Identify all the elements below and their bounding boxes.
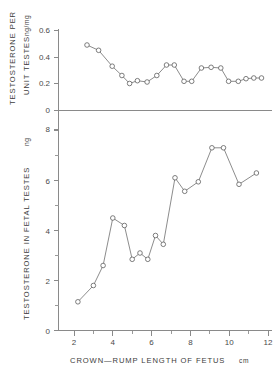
x-ticklabel-2: 2 — [72, 338, 77, 347]
two-panel-line-chart: 0.6 0.4 0.2 0 8 — [0, 0, 276, 369]
top-panel-y-ticks — [54, 31, 59, 130]
figure-container: 0.6 0.4 0.2 0 8 — [0, 0, 276, 369]
data-point — [182, 189, 187, 194]
data-point — [146, 257, 151, 262]
data-point — [259, 76, 264, 81]
data-point — [199, 66, 204, 71]
top-y-ticklabel-2: 0.2 — [39, 79, 51, 88]
data-point — [221, 146, 226, 151]
data-point — [254, 171, 259, 176]
x-ticklabel-10: 10 — [225, 338, 234, 347]
data-point — [172, 63, 177, 68]
data-point — [173, 176, 178, 181]
top-y-ticklabel-0: 0.6 — [39, 26, 51, 35]
data-point — [237, 182, 242, 187]
bottom-series-line — [78, 148, 257, 302]
bottom-panel-y-major-ticks — [54, 131, 59, 331]
top-y-ticklabel-1: 0.4 — [39, 53, 51, 62]
x-ticklabel-8: 8 — [188, 338, 193, 347]
bottom-panel: 0 2 4 6 2 4 6 — [22, 126, 273, 365]
data-point — [244, 76, 249, 81]
data-point — [135, 78, 140, 83]
data-point — [189, 79, 194, 84]
bottom-panel-y-axis-title: TESTOSTERONE IN FETAL TESTES — [22, 167, 31, 320]
data-point — [120, 73, 125, 78]
bottom-y-ticklabel-8: 8 — [46, 125, 51, 134]
top-panel-y-axis-unit: ng/mg — [23, 15, 31, 36]
x-axis-unit: cm — [239, 357, 249, 364]
data-point — [145, 80, 150, 85]
data-point — [91, 283, 96, 288]
data-point — [161, 242, 166, 247]
data-point — [130, 257, 135, 262]
data-point — [155, 73, 160, 78]
data-point — [110, 64, 115, 69]
data-point — [76, 300, 81, 305]
top-y-ticklabel-3: 0 — [46, 106, 51, 115]
x-ticklabel-12: 12 — [264, 338, 273, 347]
bottom-y-ticklabel-2: 2 — [46, 277, 51, 286]
data-point — [252, 76, 257, 81]
top-panel-y-axis-title-line2: UNIT TESTES — [22, 36, 31, 95]
x-axis-title: CROWN—RUMP LENGTH OF FETUS — [70, 356, 225, 365]
data-point — [164, 63, 169, 68]
data-point — [138, 251, 143, 256]
bottom-y-ticklabel-4: 4 — [46, 227, 51, 236]
data-point — [96, 48, 101, 53]
data-point — [101, 263, 106, 268]
data-point — [219, 66, 224, 71]
data-point — [182, 79, 187, 84]
data-point — [196, 180, 201, 185]
bottom-panel-y-axis-unit: ng — [23, 137, 31, 146]
data-point — [85, 43, 90, 48]
x-ticklabel-6: 6 — [149, 338, 154, 347]
top-series-markers — [85, 43, 264, 86]
data-point — [111, 216, 116, 221]
top-panel: 0.6 0.4 0.2 0 8 — [8, 11, 272, 138]
data-point — [127, 81, 132, 86]
top-panel-y-axis-title-line1: TESTOSTERONE PER — [8, 11, 17, 105]
bottom-panel-x-minor-ticks — [93, 331, 248, 335]
bottom-y-ticklabel-6: 6 — [46, 177, 51, 186]
data-point — [153, 233, 158, 238]
data-point — [210, 146, 215, 151]
bottom-series-markers — [76, 146, 259, 305]
x-ticklabel-4: 4 — [111, 338, 116, 347]
data-point — [236, 79, 241, 84]
data-point — [209, 65, 214, 70]
data-point — [122, 223, 127, 228]
data-point — [226, 79, 231, 84]
bottom-y-ticklabel-0: 0 — [46, 327, 51, 336]
